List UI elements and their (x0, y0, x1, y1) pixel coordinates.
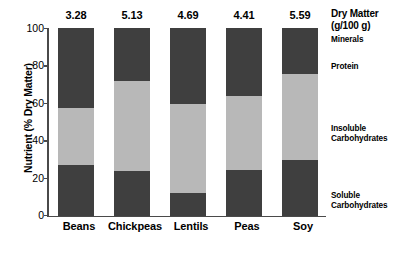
bar-value-lentils: 4.69 (177, 9, 198, 21)
bar-group-peas: 4.41 (226, 28, 262, 216)
bar-segment-minerals (226, 28, 262, 38)
legend-label-soluble-line2: Carbohydrates (331, 201, 387, 210)
plot-area: 3.28 5.13 4.69 4.41 5.59 (47, 28, 326, 216)
y-tick-60: 60 (18, 98, 44, 109)
legend-label-protein: Protein (331, 62, 359, 71)
bar-segment-soluble-carbohydrates (282, 160, 318, 216)
bar-group-soy: 5.59 (282, 28, 318, 216)
legend-label-minerals: Minerals (331, 35, 363, 44)
bar-segment-protein (114, 39, 150, 80)
legend-label-soluble-line1: Soluble (331, 191, 360, 200)
legend-title-line1: Dry Matter (331, 8, 378, 19)
bar-segment-protein (282, 38, 318, 74)
bar-segment-soluble-carbohydrates (170, 193, 206, 217)
bar-value-soy: 5.59 (289, 9, 310, 21)
bar-segment-minerals (58, 28, 94, 39)
bar-segment-minerals (282, 28, 318, 38)
bar-value-beans: 3.28 (65, 9, 86, 21)
bar-stack[interactable] (170, 28, 206, 216)
bar-segment-minerals (170, 28, 206, 39)
bar-segment-protein (58, 39, 94, 108)
y-tick-20: 20 (18, 172, 44, 183)
x-label-soy: Soy (264, 220, 342, 232)
bar-stack[interactable] (282, 28, 318, 216)
bar-segment-insoluble-carbohydrates (58, 108, 94, 165)
legend-title-line2: (g/100 g) (331, 20, 370, 31)
bar-value-chickpeas: 5.13 (121, 9, 142, 21)
bar-segment-insoluble-carbohydrates (226, 96, 262, 170)
bar-group-chickpeas: 5.13 (114, 28, 150, 216)
bar-segment-protein (170, 39, 206, 104)
bar-segment-minerals (114, 28, 150, 39)
bar-group-beans: 3.28 (58, 28, 94, 216)
bar-value-peas: 4.41 (233, 9, 254, 21)
bar-segment-insoluble-carbohydrates (170, 104, 206, 192)
bar-segment-insoluble-carbohydrates (114, 81, 150, 171)
legend-label-insoluble-line2: Carbohydrates (331, 134, 387, 143)
bar-stack[interactable] (114, 28, 150, 216)
bar-group-lentils: 4.69 (170, 28, 206, 216)
bar-segment-insoluble-carbohydrates (282, 74, 318, 160)
bar-segment-soluble-carbohydrates (58, 165, 94, 216)
bar-stack[interactable] (226, 28, 262, 216)
y-axis-tick-labels: 100 80 60 40 20 0 (18, 28, 44, 215)
legend-label-insoluble-line1: Insoluble (331, 124, 366, 133)
y-tick-80: 80 (18, 60, 44, 71)
y-tick-100: 100 (18, 23, 44, 34)
y-tick-40: 40 (18, 135, 44, 146)
stacked-bar-chart: Nutrient (% Dry Matter) 100 80 60 40 20 … (0, 0, 407, 254)
bar-segment-protein (226, 38, 262, 95)
bar-stack[interactable] (58, 28, 94, 216)
bar-segment-soluble-carbohydrates (114, 171, 150, 216)
y-tick-0: 0 (18, 210, 44, 221)
bar-segment-soluble-carbohydrates (226, 170, 262, 216)
